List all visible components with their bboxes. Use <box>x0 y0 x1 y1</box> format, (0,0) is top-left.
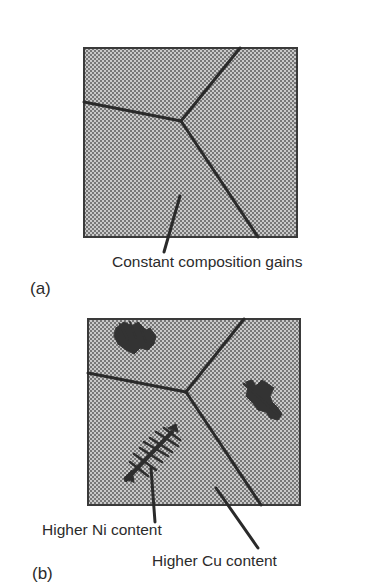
panel-a-microstructure <box>84 48 297 252</box>
diagram-canvas <box>0 0 365 586</box>
annotation-constant-composition: Constant composition gains <box>112 254 302 270</box>
panel-b-tag: (b) <box>32 565 53 582</box>
panel-b-microstructure <box>88 319 300 548</box>
panel-a-frame <box>84 48 297 237</box>
panel-a-tag: (a) <box>30 280 51 297</box>
annotation-higher-cu: Higher Cu content <box>152 553 277 569</box>
annotation-higher-ni: Higher Ni content <box>42 522 162 538</box>
